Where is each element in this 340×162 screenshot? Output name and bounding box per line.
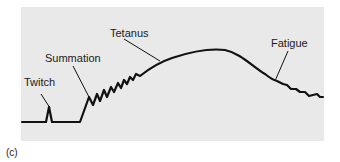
fatigue-label: Fatigue [271,38,308,49]
fatigue-leader-line [275,51,288,81]
figure-caption: (c) [6,147,18,158]
twitch-leader-line [41,94,50,108]
twitch-label: Twitch [24,77,55,88]
summation-leader-line [73,66,89,97]
summation-label: Summation [45,53,101,64]
tetanus-leader-line [124,39,160,61]
tetanus-label: Tetanus [110,28,149,39]
muscle-contraction-figure: Twitch Summation Tetanus Fatigue (c) [0,0,340,162]
